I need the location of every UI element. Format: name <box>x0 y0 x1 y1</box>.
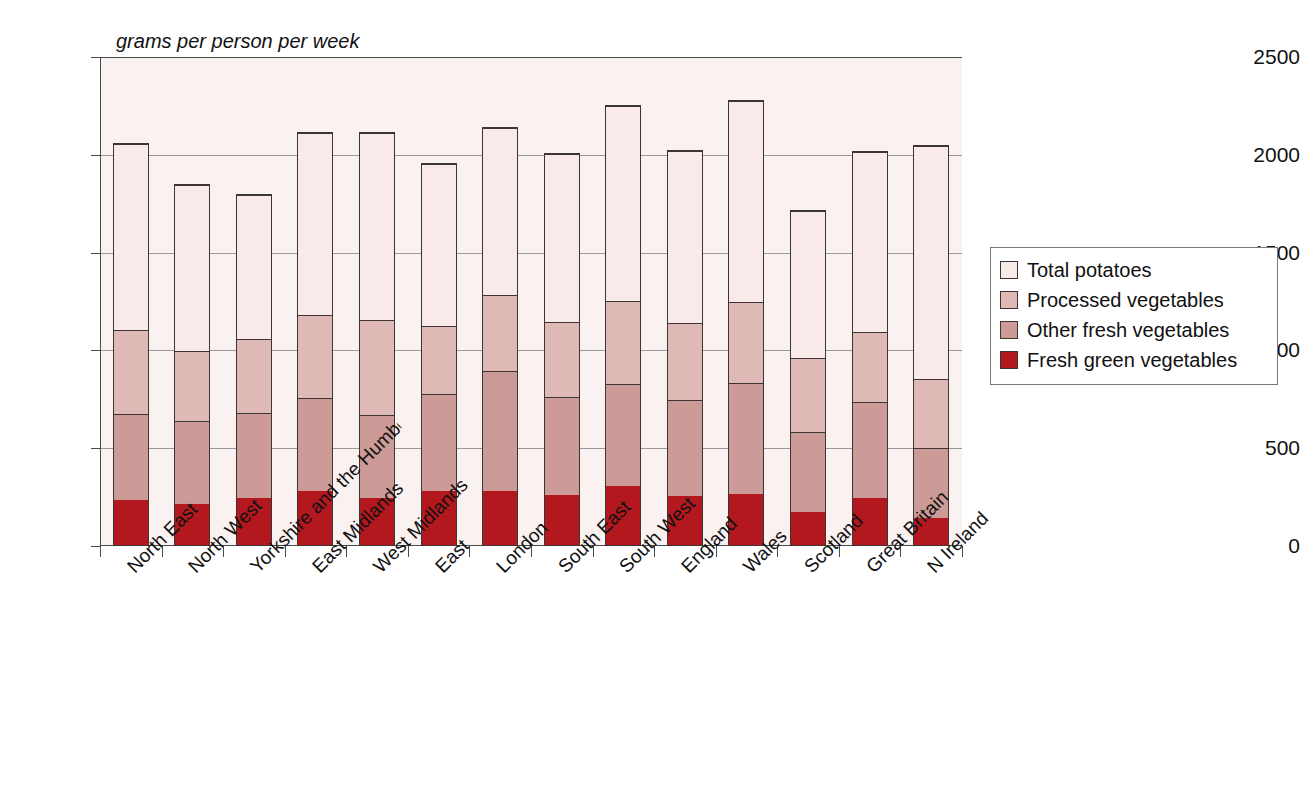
bar-segment[interactable] <box>914 146 948 379</box>
stacked-bar[interactable] <box>113 143 149 546</box>
axis-unit-caption: grams per person per week <box>116 30 359 53</box>
bar-segment[interactable] <box>668 323 702 400</box>
bar-segment[interactable] <box>237 413 271 498</box>
bar-segment[interactable] <box>175 421 209 504</box>
y-axis-tick-mark <box>91 253 100 254</box>
legend-swatch-icon <box>1000 261 1018 279</box>
legend-item-label: Other fresh vegetables <box>1027 319 1229 342</box>
y-axis-tick-mark <box>91 155 100 156</box>
bar-segment[interactable] <box>422 326 456 394</box>
legend-item-label: Processed vegetables <box>1027 289 1224 312</box>
bar-group[interactable] <box>654 57 716 546</box>
legend-item[interactable]: Total potatoes <box>1000 255 1269 285</box>
bar-group[interactable] <box>408 57 470 546</box>
bar-segment[interactable] <box>668 151 702 323</box>
bar-segment[interactable] <box>360 133 394 320</box>
chart-root: grams per person per week 05001000150020… <box>0 0 1300 812</box>
stacked-bar[interactable] <box>236 194 272 546</box>
cut-off-title <box>0 0 1300 10</box>
legend-swatch-icon <box>1000 351 1018 369</box>
bar-segment[interactable] <box>668 400 702 496</box>
stacked-bar[interactable] <box>728 100 764 546</box>
stacked-bar[interactable] <box>790 210 826 546</box>
stacked-bar[interactable] <box>913 145 949 546</box>
legend-item[interactable]: Processed vegetables <box>1000 285 1269 315</box>
bar-segment[interactable] <box>298 315 332 398</box>
y-axis-tick-mark <box>91 546 100 547</box>
bar-segment[interactable] <box>545 397 579 495</box>
bar-segment[interactable] <box>114 414 148 500</box>
y-axis-tick-mark <box>91 350 100 351</box>
bar-segment[interactable] <box>175 351 209 420</box>
bar-segment[interactable] <box>237 339 271 413</box>
bar-segment[interactable] <box>298 398 332 491</box>
legend-swatch-icon <box>1000 291 1018 309</box>
bar-segment[interactable] <box>853 332 887 402</box>
stacked-bar[interactable] <box>667 150 703 546</box>
bar-segment[interactable] <box>114 144 148 330</box>
bar-group[interactable] <box>100 57 162 546</box>
stacked-bar[interactable] <box>174 184 210 546</box>
bars-layer <box>100 57 962 546</box>
y-axis-tick-label: 500 <box>1214 436 1300 460</box>
bar-segment[interactable] <box>791 512 825 545</box>
bar-segment[interactable] <box>729 302 763 383</box>
bar-segment[interactable] <box>483 491 517 545</box>
y-axis-tick-label: 2500 <box>1214 45 1300 69</box>
bar-segment[interactable] <box>298 133 332 315</box>
bar-segment[interactable] <box>791 211 825 359</box>
bar-segment[interactable] <box>114 500 148 545</box>
bar-segment[interactable] <box>114 330 148 414</box>
bar-segment[interactable] <box>545 322 579 397</box>
bar-segment[interactable] <box>422 394 456 491</box>
bar-segment[interactable] <box>360 320 394 415</box>
stacked-bar[interactable] <box>544 153 580 546</box>
bar-segment[interactable] <box>483 295 517 371</box>
bar-group[interactable] <box>777 57 839 546</box>
bar-segment[interactable] <box>729 383 763 494</box>
bar-segment[interactable] <box>175 185 209 351</box>
bar-segment[interactable] <box>483 371 517 491</box>
bar-group[interactable] <box>716 57 778 546</box>
y-axis-tick-label: 0 <box>1214 534 1300 558</box>
bar-group[interactable] <box>900 57 962 546</box>
legend-item[interactable]: Fresh green vegetables <box>1000 345 1269 375</box>
bar-segment[interactable] <box>237 195 271 339</box>
bar-segment[interactable] <box>729 101 763 301</box>
bar-segment[interactable] <box>914 379 948 448</box>
legend-swatch-icon <box>1000 321 1018 339</box>
stacked-bar[interactable] <box>605 105 641 546</box>
bar-group[interactable] <box>162 57 224 546</box>
legend-item[interactable]: Other fresh vegetables <box>1000 315 1269 345</box>
bar-group[interactable] <box>469 57 531 546</box>
stacked-bar[interactable] <box>482 127 518 546</box>
bar-segment[interactable] <box>791 358 825 431</box>
legend-item-label: Total potatoes <box>1027 259 1152 282</box>
bar-group[interactable] <box>531 57 593 546</box>
bar-segment[interactable] <box>853 402 887 498</box>
bar-segment[interactable] <box>853 152 887 332</box>
bar-segment[interactable] <box>729 494 763 545</box>
x-axis-tick-mark <box>100 546 101 557</box>
y-axis-tick-label: 2000 <box>1214 143 1300 167</box>
bar-segment[interactable] <box>545 154 579 322</box>
bar-group[interactable] <box>839 57 901 546</box>
stacked-bar[interactable] <box>852 151 888 546</box>
bar-segment[interactable] <box>791 432 825 512</box>
bar-segment[interactable] <box>545 495 579 545</box>
bar-segment[interactable] <box>483 128 517 294</box>
bar-segment[interactable] <box>606 384 640 487</box>
bar-group[interactable] <box>593 57 655 546</box>
legend-item-label: Fresh green vegetables <box>1027 349 1237 372</box>
y-axis-tick-mark <box>91 57 100 58</box>
legend: Total potatoesProcessed vegetablesOther … <box>990 247 1278 385</box>
bar-segment[interactable] <box>422 164 456 326</box>
bar-group[interactable] <box>223 57 285 546</box>
bar-segment[interactable] <box>606 301 640 384</box>
bar-segment[interactable] <box>606 106 640 301</box>
y-axis-tick-mark <box>91 448 100 449</box>
